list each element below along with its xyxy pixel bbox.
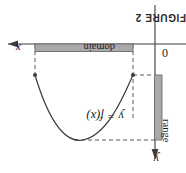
figure-panel: x y 0 domain range y = f(x) FIGURE 2 — [0, 0, 186, 173]
function-equation-label: y = f(x) — [86, 108, 124, 123]
origin-label: 0 — [162, 45, 168, 60]
domain-label: domain — [84, 42, 116, 53]
range-label: range — [161, 119, 172, 142]
curve-endpoint-left — [131, 73, 135, 77]
figure-graphic — [0, 0, 186, 173]
dashed-guides-group — [35, 44, 155, 140]
figure-caption: FIGURE 2 — [110, 12, 186, 23]
y-axis-label: y — [154, 151, 159, 166]
curve-endpoint-right — [33, 73, 37, 77]
function-curve-group — [33, 73, 135, 140]
x-axis-label: x — [16, 40, 21, 55]
